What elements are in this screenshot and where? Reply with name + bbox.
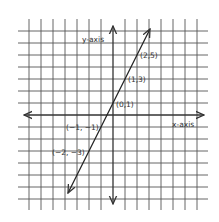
point-label-0-1: (0,1) [116, 100, 134, 109]
y-axis-label: y-axis [82, 35, 104, 44]
point-label-m2-m3: (−2, −3) [52, 148, 85, 157]
point-label-m1-m1: (−1, −1) [66, 123, 99, 132]
coordinate-graph: y-axis x-axis (2,5) (1,3) (0,1) (−1, −1)… [0, 0, 219, 222]
x-axis-label: x-axis [172, 120, 194, 129]
plotted-line [68, 29, 150, 193]
axes [24, 26, 204, 204]
point-label-2-5: (2,5) [140, 51, 158, 60]
point-label-1-3: (1,3) [128, 75, 146, 84]
